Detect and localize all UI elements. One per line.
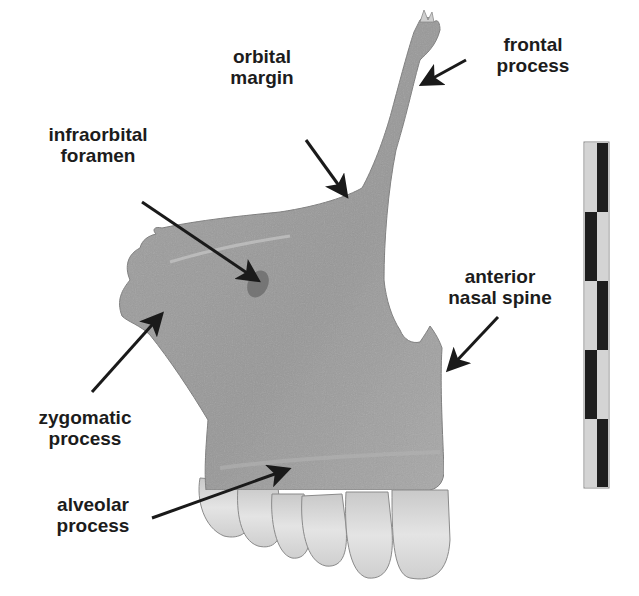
label-frontal-process: frontal process xyxy=(478,34,588,76)
arrow-zygomatic-process xyxy=(92,316,160,392)
arrow-anterior-nasal-spine xyxy=(450,317,498,368)
label-orbital-margin: orbital margin xyxy=(212,46,312,88)
frontal-process-tip xyxy=(420,10,434,22)
maxilla-bone xyxy=(120,17,444,490)
tooth-canine xyxy=(346,492,393,578)
tooth-premolar-1 xyxy=(302,494,347,566)
teeth xyxy=(199,478,450,579)
arrow-orbital-margin xyxy=(306,140,345,194)
scale-bar xyxy=(584,142,609,488)
label-infraorbital-foramen: infraorbital foramen xyxy=(28,124,168,166)
tooth-incisor xyxy=(392,490,450,579)
maxilla-diagram: orbital margin frontal process infraorbi… xyxy=(0,0,639,596)
arrow-frontal-process xyxy=(424,60,466,83)
label-alveolar-process: alveolar process xyxy=(38,494,148,536)
label-anterior-nasal-spine: anterior nasal spine xyxy=(430,266,570,308)
label-zygomatic-process: zygomatic process xyxy=(20,407,150,449)
